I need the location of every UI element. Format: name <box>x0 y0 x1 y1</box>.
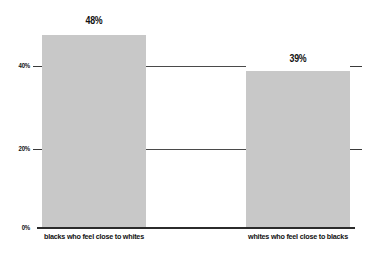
value-label-blacks-close-to-whites: 48% <box>48 15 140 26</box>
y-axis-label-0: 0% <box>8 224 30 231</box>
category-label-blacks-close-to-whites: blacks who feel close to whites <box>31 232 157 241</box>
value-label-whites-close-to-blacks: 39% <box>252 53 344 64</box>
x-axis-baseline <box>37 227 355 229</box>
y-axis-label-20: 20% <box>8 145 30 152</box>
y-axis-tick-20 <box>33 149 42 150</box>
plot-area: 40% 20% 0% 48% 39% blacks who feel close… <box>0 0 375 256</box>
gridline-20-percent <box>146 149 246 150</box>
y-axis-tick-right-20 <box>350 149 362 150</box>
bar-blacks-close-to-whites[interactable] <box>42 35 146 228</box>
y-axis-tick-right-40 <box>350 66 362 67</box>
bar-chart: 40% 20% 0% 48% 39% blacks who feel close… <box>0 0 375 256</box>
category-label-whites-close-to-blacks: whites who feel close to blacks <box>235 232 361 241</box>
y-axis-tick-40 <box>33 66 42 67</box>
bar-whites-close-to-blacks[interactable] <box>246 71 350 228</box>
y-axis-label-40: 40% <box>8 62 30 69</box>
gridline-40-percent <box>146 66 246 67</box>
